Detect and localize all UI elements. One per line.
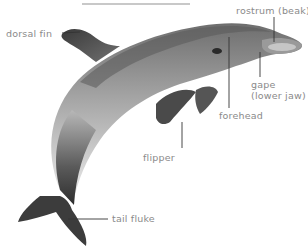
tail-fluke-shape [18, 196, 86, 246]
flipper-shape [156, 90, 196, 124]
label-rostrum: rostrum (beak) [236, 5, 308, 16]
label-forehead: forehead [219, 110, 263, 121]
label-gape-lower-jaw: (lower jaw) [251, 90, 306, 101]
label-flipper: flipper [143, 152, 175, 163]
label-gape: gape [251, 79, 276, 90]
label-tail-fluke: tail fluke [112, 213, 155, 224]
eye [212, 48, 222, 54]
dolphin-diagram: dorsal fin rostrum (beak) forehead gape … [0, 0, 308, 252]
label-dorsal-fin: dorsal fin [6, 28, 52, 39]
